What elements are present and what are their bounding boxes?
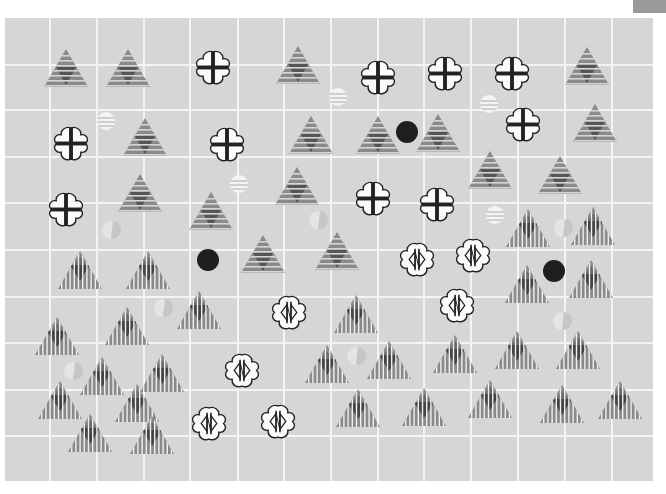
cloud-plus-icon[interactable]	[494, 55, 530, 91]
triangle-horizontal-stripes-icon[interactable]	[315, 232, 359, 270]
grid-line-horizontal	[5, 296, 653, 298]
triangle-vertical-stripes-icon[interactable]	[105, 307, 149, 345]
triangle-horizontal-stripes-icon[interactable]	[241, 235, 285, 273]
triangle-horizontal-stripes-icon[interactable]	[289, 116, 333, 154]
triangle-vertical-stripes-icon[interactable]	[130, 416, 174, 454]
cloud-plus-icon[interactable]	[505, 106, 541, 142]
triangle-vertical-stripes-icon[interactable]	[506, 209, 550, 247]
cloud-plus-icon[interactable]	[419, 186, 455, 222]
triangle-horizontal-stripes-icon[interactable]	[44, 49, 88, 87]
cloud-diamond-icon[interactable]	[224, 352, 260, 388]
striped-circle-icon[interactable]	[229, 174, 249, 194]
faint-circle-icon[interactable]	[553, 218, 573, 238]
cloud-plus-icon[interactable]	[355, 180, 391, 216]
triangle-horizontal-stripes-icon[interactable]	[189, 192, 233, 230]
triangle-horizontal-stripes-icon[interactable]	[276, 46, 320, 84]
faint-circle-icon[interactable]	[552, 311, 572, 331]
cloud-plus-icon[interactable]	[427, 55, 463, 91]
triangle-horizontal-stripes-icon[interactable]	[123, 118, 167, 156]
triangle-horizontal-stripes-icon[interactable]	[468, 151, 512, 189]
triangle-vertical-stripes-icon[interactable]	[598, 381, 642, 419]
cloud-diamond-icon[interactable]	[191, 405, 227, 441]
cloud-diamond-icon[interactable]	[399, 241, 435, 277]
triangle-vertical-stripes-icon[interactable]	[468, 380, 512, 418]
faint-circle-icon[interactable]	[346, 346, 366, 366]
triangle-horizontal-stripes-icon[interactable]	[538, 156, 582, 194]
triangle-horizontal-stripes-icon[interactable]	[573, 104, 617, 142]
cloud-plus-icon[interactable]	[53, 125, 89, 161]
triangle-vertical-stripes-icon[interactable]	[540, 385, 584, 423]
triangle-vertical-stripes-icon[interactable]	[571, 207, 615, 245]
triangle-vertical-stripes-icon[interactable]	[569, 260, 613, 298]
triangle-horizontal-stripes-icon[interactable]	[118, 174, 162, 212]
cloud-diamond-icon[interactable]	[271, 294, 307, 330]
cloud-diamond-icon[interactable]	[260, 403, 296, 439]
faint-circle-icon[interactable]	[101, 220, 121, 240]
triangle-vertical-stripes-icon[interactable]	[402, 388, 446, 426]
triangle-vertical-stripes-icon[interactable]	[334, 295, 378, 333]
triangle-vertical-stripes-icon[interactable]	[305, 345, 349, 383]
triangle-vertical-stripes-icon[interactable]	[126, 251, 170, 289]
triangle-horizontal-stripes-icon[interactable]	[106, 49, 150, 87]
cloud-plus-icon[interactable]	[48, 191, 84, 227]
striped-circle-icon[interactable]	[485, 205, 505, 225]
triangle-horizontal-stripes-icon[interactable]	[356, 116, 400, 154]
triangle-vertical-stripes-icon[interactable]	[177, 291, 221, 329]
cloud-diamond-icon[interactable]	[455, 237, 491, 273]
triangle-vertical-stripes-icon[interactable]	[367, 341, 411, 379]
triangle-vertical-stripes-icon[interactable]	[433, 335, 477, 373]
cloud-plus-icon[interactable]	[209, 126, 245, 162]
triangle-vertical-stripes-icon[interactable]	[58, 251, 102, 289]
triangle-vertical-stripes-icon[interactable]	[556, 331, 600, 369]
game-board[interactable]	[5, 18, 653, 481]
triangle-vertical-stripes-icon[interactable]	[336, 389, 380, 427]
corner-tab	[633, 0, 666, 13]
striped-circle-icon[interactable]	[96, 111, 116, 131]
cloud-diamond-icon[interactable]	[439, 287, 475, 323]
grid-line-horizontal	[5, 202, 653, 204]
cloud-plus-icon[interactable]	[360, 59, 396, 95]
triangle-horizontal-stripes-icon[interactable]	[416, 114, 460, 152]
triangle-vertical-stripes-icon[interactable]	[35, 317, 79, 355]
faint-circle-icon[interactable]	[153, 298, 173, 318]
triangle-horizontal-stripes-icon[interactable]	[275, 167, 319, 205]
cloud-plus-icon[interactable]	[195, 49, 231, 85]
faint-circle-icon[interactable]	[308, 210, 328, 230]
triangle-horizontal-stripes-icon[interactable]	[565, 47, 609, 85]
striped-circle-icon[interactable]	[328, 87, 348, 107]
striped-circle-icon[interactable]	[479, 94, 499, 114]
black-dot-icon[interactable]	[542, 259, 566, 283]
grid-line-horizontal	[5, 64, 653, 66]
black-dot-icon[interactable]	[196, 248, 220, 272]
black-dot-icon[interactable]	[395, 120, 419, 144]
triangle-vertical-stripes-icon[interactable]	[495, 331, 539, 369]
triangle-vertical-stripes-icon[interactable]	[68, 414, 112, 452]
